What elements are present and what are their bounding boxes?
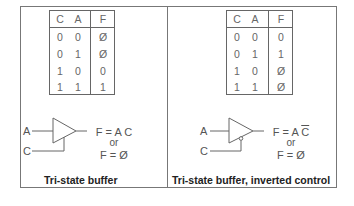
tri-state-buffer-symbol	[32, 118, 87, 151]
equation-or: or	[91, 137, 137, 149]
equation-line2: F = Ø	[268, 149, 314, 161]
caption-tri-state-buffer: Tri-state buffer	[44, 174, 118, 186]
caption-tri-state-buffer-inverted: Tri-state buffer, inverted control	[172, 174, 330, 186]
input-a-label: A	[23, 125, 30, 137]
input-c-label: C	[200, 145, 208, 157]
tri-state-buffer-inverted-symbol	[210, 118, 264, 151]
input-c-label: C	[23, 145, 31, 157]
input-a-label: A	[200, 125, 207, 137]
equation-line2: F = Ø	[91, 149, 137, 161]
inversion-bubble	[239, 137, 243, 141]
equation-or: or	[268, 137, 314, 149]
